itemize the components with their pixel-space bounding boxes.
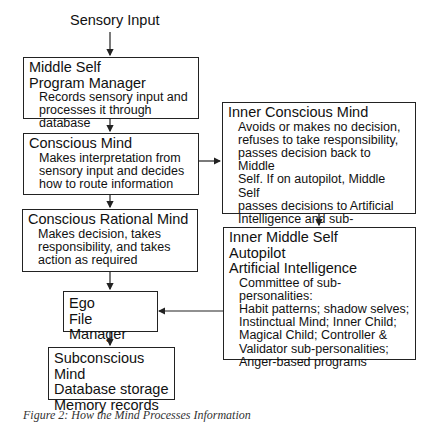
figure-caption: Figure 2: How the Mind Processes Informa… <box>23 408 251 423</box>
